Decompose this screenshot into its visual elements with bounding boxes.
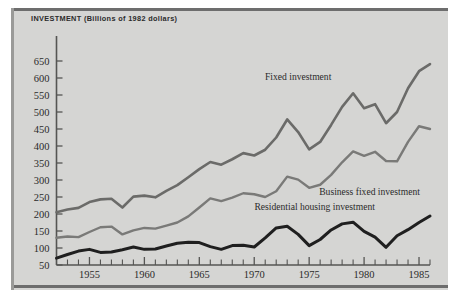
x-axis-ticks [57, 257, 431, 265]
series-line [57, 216, 431, 258]
series-annotations: Fixed investmentBusiness fixed investmen… [254, 71, 420, 212]
y-tick-label: 450 [34, 124, 50, 135]
y-tick-label: 500 [34, 107, 50, 118]
investment-line-chart: 50100150200250300350400450500550600650 1… [0, 0, 459, 302]
y-tick-label: 150 [34, 226, 50, 237]
axis-lines [57, 36, 431, 265]
y-tick-label: 200 [34, 209, 50, 220]
series-annotation: Business fixed investment [319, 186, 420, 197]
y-tick-label: 400 [34, 141, 50, 152]
y-tick-label: 100 [34, 243, 50, 254]
x-tick-label: 1960 [134, 269, 155, 280]
series-lines [57, 64, 431, 258]
y-tick-label: 600 [34, 73, 50, 84]
x-tick-label: 1985 [409, 269, 430, 280]
x-tick-label: 1975 [299, 269, 320, 280]
y-tick-label: 300 [34, 175, 50, 186]
series-annotation: Residential housing investment [254, 201, 375, 212]
y-tick-label: 50 [39, 260, 50, 271]
x-axis-tick-labels: 1955196019651970197519801985 [79, 269, 430, 280]
x-tick-label: 1980 [354, 269, 375, 280]
x-tick-label: 1970 [244, 269, 265, 280]
y-tick-label: 250 [34, 192, 50, 203]
chart-page: INVESTMENT (Billions of 1982 dollars) 50… [0, 0, 459, 302]
y-tick-label: 650 [34, 56, 50, 67]
series-annotation: Fixed investment [265, 71, 332, 82]
y-tick-label: 350 [34, 158, 50, 169]
x-tick-label: 1965 [189, 269, 210, 280]
y-axis-tick-labels: 50100150200250300350400450500550600650 [34, 56, 50, 271]
y-tick-label: 550 [34, 90, 50, 101]
y-axis-ticks [57, 61, 63, 265]
x-tick-label: 1955 [79, 269, 100, 280]
series-line [57, 126, 431, 238]
